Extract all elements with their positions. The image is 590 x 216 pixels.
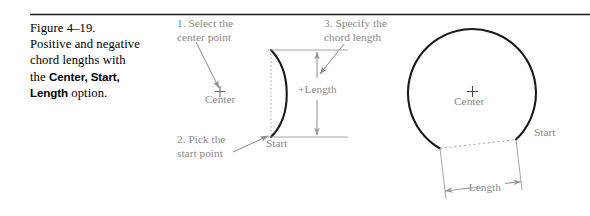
right-start-label: Start [534,126,556,140]
right-center-label: Center [454,95,484,109]
caption-line-3: chord lengths with [30,52,170,68]
right-dim-arrow-right [505,182,521,184]
right-dimension-label: –Length [463,181,501,195]
annotation-step-3-line-2: chord length [324,31,387,45]
caption-line-2: Positive and negative [30,36,170,52]
figure-illustration: Figure 4–19. Positive and negative chord… [0,0,590,216]
annotation-step-2: 2. Pick the start point [177,133,225,160]
middle-dimension-label: +Length [298,83,337,97]
annotation-step-3: 3. Specify the chord length [324,17,387,44]
caption-line-1: Figure 4–19. [30,20,170,36]
leader-step3 [320,44,344,74]
annotation-step-2-line-1: 2. Pick the [177,133,225,147]
middle-center-label: Center [205,93,235,107]
middle-start-label: Start [266,137,288,151]
caption-line-4-prefix: the [30,70,49,84]
annotation-step-1-line-2: center point [177,31,233,45]
caption-option-name-part2: Length [30,86,68,99]
annotation-step-3-line-1: 3. Specify the [324,17,387,31]
annotation-step-1-line-1: 1. Select the [177,17,233,31]
middle-arc [271,50,287,137]
figure-caption: Figure 4–19. Positive and negative chord… [30,20,170,101]
caption-option-name-part1: Center, Start, [49,70,120,83]
caption-line-5: Length option. [30,85,170,101]
annotation-step-2-line-2: start point [177,147,225,161]
annotation-step-1: 1. Select the center point [177,17,233,44]
caption-line-4: the Center, Start, [30,69,170,85]
leader-step1 [196,42,219,88]
leader-step2 [233,136,268,152]
right-chord-dashed [440,140,516,149]
caption-line-5-suffix: option. [68,86,107,100]
